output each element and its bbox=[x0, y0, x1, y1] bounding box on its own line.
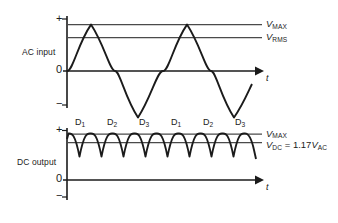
ac-minus-label: − bbox=[56, 98, 62, 109]
diode-label-6-base: D bbox=[235, 117, 242, 127]
diode-label-3-base: D bbox=[139, 117, 146, 127]
diode-label-4-sub: 1 bbox=[178, 121, 182, 128]
diode-label-1-base: D bbox=[75, 117, 82, 127]
ac-plus-label: + bbox=[56, 13, 62, 24]
diode-label-4: D1 bbox=[171, 118, 181, 127]
ac-vmax-label-sub: MAX bbox=[272, 23, 287, 30]
diode-label-1-sub: 1 bbox=[82, 121, 86, 128]
diode-label-2-sub: 2 bbox=[114, 121, 118, 128]
diode-label-6: D3 bbox=[235, 118, 245, 127]
dc-minus-label: − bbox=[56, 190, 62, 201]
ac-vrms-label: VRMS bbox=[266, 32, 287, 42]
dc-output-panel bbox=[62, 128, 264, 200]
dc-vdc-label-base2: V bbox=[311, 139, 317, 150]
diode-label-6-sub: 3 bbox=[242, 121, 246, 128]
diode-label-2: D2 bbox=[107, 118, 117, 127]
dc-zero-label: 0 bbox=[56, 173, 62, 184]
dc-time-axis-arrow bbox=[255, 176, 264, 185]
diode-label-1: D1 bbox=[75, 118, 85, 127]
diode-label-2-base: D bbox=[107, 117, 114, 127]
dc-plus-label: + bbox=[56, 124, 62, 135]
diode-label-5: D2 bbox=[203, 118, 213, 127]
rectifier-waveform-figure bbox=[0, 0, 338, 223]
dc-vdc-label-equals: = 1.17 bbox=[282, 139, 311, 150]
dc-vdc-label-sub2: AC bbox=[318, 144, 327, 151]
ac-vrms-label-sub: RMS bbox=[272, 36, 287, 43]
ac-vmax-label: VMAX bbox=[266, 19, 287, 29]
dc-vmax-label: VMAX bbox=[266, 129, 287, 139]
ac-zero-label: 0 bbox=[56, 64, 62, 75]
dc-vdc-label: VDC = 1.17VAC bbox=[266, 140, 327, 150]
dc-ripple-waveform bbox=[67, 133, 256, 159]
dc-vdc-label-sub: DC bbox=[272, 144, 282, 151]
ac-time-axis-label: t bbox=[266, 74, 269, 83]
diode-label-3-sub: 3 bbox=[146, 121, 150, 128]
dc-time-axis-label: t bbox=[266, 183, 269, 192]
diode-label-4-base: D bbox=[171, 117, 178, 127]
diode-label-3: D3 bbox=[139, 118, 149, 127]
diode-label-5-sub: 2 bbox=[210, 121, 214, 128]
ac-time-axis-arrow bbox=[255, 67, 264, 76]
dc-output-row-label: DC output bbox=[17, 158, 56, 167]
ac-input-row-label: AC input bbox=[22, 48, 55, 57]
diode-label-5-base: D bbox=[203, 117, 210, 127]
ac-input-panel bbox=[62, 16, 264, 118]
